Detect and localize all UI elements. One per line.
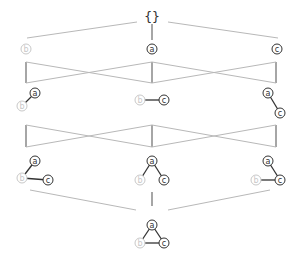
connector-empty-b bbox=[27, 22, 137, 38]
level-triangle: a b c bbox=[135, 220, 169, 248]
vertex-b-label: b bbox=[137, 96, 142, 105]
connector-right-triangle bbox=[168, 190, 270, 210]
connector-empty-c bbox=[168, 22, 278, 38]
lattice-connectors-level-0 bbox=[27, 22, 278, 40]
graph-ac: a c bbox=[263, 88, 285, 118]
vertex-a-label: a bbox=[33, 157, 38, 166]
vertex-b-label: b bbox=[19, 174, 24, 183]
level-single-vertex: b a c bbox=[21, 44, 282, 54]
vertex-c-label: c bbox=[278, 109, 282, 118]
graph-ac-bc: a b c bbox=[251, 156, 285, 185]
vertex-c-label: c bbox=[162, 96, 166, 105]
empty-set-label: {} bbox=[144, 9, 160, 24]
vertex-b-label: b bbox=[19, 102, 24, 111]
graph-c: c bbox=[272, 44, 282, 54]
vertex-a-label: a bbox=[266, 89, 271, 98]
lattice-connectors-level-3 bbox=[30, 190, 270, 210]
vertex-b-label: b bbox=[137, 239, 142, 248]
vertex-c-label: c bbox=[278, 176, 282, 185]
empty-set-node: {} bbox=[144, 9, 160, 24]
graph-abc: a b c bbox=[135, 220, 169, 248]
vertex-c-label: c bbox=[46, 176, 50, 185]
lattice-connectors-level-1 bbox=[26, 62, 276, 83]
connector-left-triangle bbox=[30, 190, 136, 210]
lattice-connectors-level-2 bbox=[26, 125, 276, 147]
vertex-c-label: c bbox=[275, 45, 279, 54]
graph-ab-bc: a b c bbox=[17, 156, 53, 185]
vertex-a-label: a bbox=[266, 157, 271, 166]
graph-ab-ac: a b c bbox=[135, 156, 169, 185]
graph-ab: a b bbox=[17, 88, 40, 111]
lattice-diagram: {} b a c a bbox=[0, 0, 299, 266]
level-one-edge: a b b c a c bbox=[17, 88, 285, 118]
graph-a: a bbox=[147, 44, 157, 54]
vertex-a-label: a bbox=[150, 221, 155, 230]
vertex-b-label: b bbox=[23, 45, 28, 54]
vertex-c-label: c bbox=[162, 176, 166, 185]
vertex-a-label: a bbox=[150, 157, 155, 166]
level-two-edges: a b c a b c a b c bbox=[17, 156, 285, 185]
vertex-a-label: a bbox=[33, 89, 38, 98]
graph-b: b bbox=[21, 44, 31, 54]
graph-bc: b c bbox=[135, 95, 169, 105]
vertex-b-label: b bbox=[137, 176, 142, 185]
vertex-b-label: b bbox=[253, 176, 258, 185]
vertex-c-label: c bbox=[162, 239, 166, 248]
vertex-a-label: a bbox=[150, 45, 155, 54]
